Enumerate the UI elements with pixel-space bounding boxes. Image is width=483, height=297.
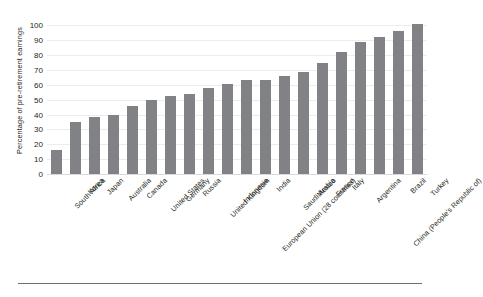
- bar: [298, 72, 310, 174]
- y-tick-label: 10: [34, 155, 43, 164]
- bars-group: [47, 18, 427, 174]
- bar: [374, 37, 386, 174]
- bar: [317, 63, 329, 174]
- y-tick-label: 80: [34, 51, 43, 60]
- y-tick-label: 0: [39, 170, 43, 179]
- y-tick-label: 40: [34, 110, 43, 119]
- bar: [355, 42, 367, 174]
- bar: [70, 122, 82, 174]
- plot-area: 0102030405060708090100: [47, 18, 427, 174]
- y-tick-label: 60: [34, 80, 43, 89]
- y-axis-title: Percentage of pre-retirement earnings: [15, 6, 24, 176]
- y-tick-label: 30: [34, 125, 43, 134]
- bar: [260, 80, 272, 174]
- bar: [412, 24, 424, 174]
- bar: [89, 117, 101, 174]
- y-tick-label: 20: [34, 140, 43, 149]
- x-tick-label: Argentina: [374, 176, 403, 205]
- bar: [146, 100, 158, 174]
- y-tick-label: 100: [30, 21, 43, 30]
- y-tick-label: 70: [34, 66, 43, 75]
- y-tick-label: 50: [34, 95, 43, 104]
- bar: [108, 115, 120, 174]
- x-tick-label: India: [274, 176, 292, 194]
- bar: [127, 106, 139, 174]
- bar: [203, 88, 215, 174]
- x-tick-label: Indonesia: [241, 176, 270, 205]
- bar: [336, 52, 348, 174]
- bar: [393, 31, 405, 174]
- bar: [165, 96, 177, 174]
- bar: [241, 80, 253, 174]
- bar: [222, 84, 234, 174]
- y-tick-label: 90: [34, 36, 43, 45]
- bar: [184, 94, 196, 174]
- gridline: [47, 174, 427, 175]
- x-tick-label: Brazil: [408, 176, 427, 195]
- bar: [279, 76, 291, 174]
- footer-divider: [18, 283, 422, 284]
- bar: [51, 150, 63, 174]
- x-tick-label: Turkey: [428, 176, 450, 198]
- x-axis-labels: South AfricaKoreaJapanAustraliaCanadaUni…: [47, 176, 427, 286]
- x-tick-label: Japan: [104, 176, 124, 196]
